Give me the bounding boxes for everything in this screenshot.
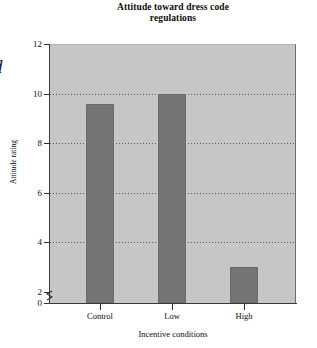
y-tick-label-0: 0 (14, 299, 42, 308)
axis-break-icon (45, 289, 55, 302)
y-tick-mark-8 (44, 143, 49, 144)
y-tick-mark-10 (44, 94, 49, 95)
y-tick-label-2: 2 (14, 288, 42, 297)
x-axis-line (49, 303, 297, 304)
chart-title: Attitude toward dress code regulations (50, 2, 296, 24)
y-tick-label-8: 8 (14, 139, 42, 148)
bar-control (86, 104, 114, 303)
y-tick-mark-0 (44, 303, 49, 304)
bar-chart-figure: d Attitude toward dress code regulations… (0, 0, 317, 348)
x-tick-mark-low (172, 304, 173, 310)
y-axis-line (49, 44, 50, 304)
x-tick-mark-control (100, 304, 101, 310)
y-tick-mark-6 (44, 193, 49, 194)
y-tick-label-4: 4 (14, 238, 42, 247)
x-tick-label-high: High (209, 311, 279, 321)
x-axis-title: Incentive conditions (50, 329, 296, 339)
x-tick-label-low: Low (137, 311, 207, 321)
x-tick-label-control: Control (65, 311, 135, 321)
y-tick-label-6: 6 (14, 189, 42, 198)
y-tick-label-12: 12 (14, 40, 42, 49)
chart-title-line-1: Attitude toward dress code (50, 2, 296, 13)
y-axis-title: Attitude rating (10, 112, 18, 212)
y-tick-mark-2 (44, 292, 49, 293)
y-tick-mark-12 (44, 44, 49, 45)
margin-clipped-glyph: d (0, 57, 3, 76)
y-tick-label-10: 10 (14, 90, 42, 99)
y-tick-mark-4 (44, 242, 49, 243)
chart-title-line-2: regulations (50, 13, 296, 24)
bar-high (230, 267, 258, 303)
x-tick-mark-high (244, 304, 245, 310)
bar-low (158, 94, 186, 303)
